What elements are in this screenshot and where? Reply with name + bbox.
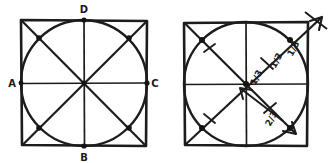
right-diagram: 1/3 1/3 1/3 2/3	[184, 12, 327, 146]
fraction-label-upper-outer: 1/3	[285, 39, 301, 58]
label-point-c: C	[151, 78, 158, 89]
left-diagram: A B C D	[8, 4, 159, 163]
geometry-figure-svg: A B C D	[0, 0, 334, 163]
label-point-b: B	[80, 152, 88, 163]
label-point-d: D	[80, 4, 88, 15]
diagram-canvas: A B C D	[0, 0, 334, 163]
label-point-a: A	[8, 78, 16, 89]
